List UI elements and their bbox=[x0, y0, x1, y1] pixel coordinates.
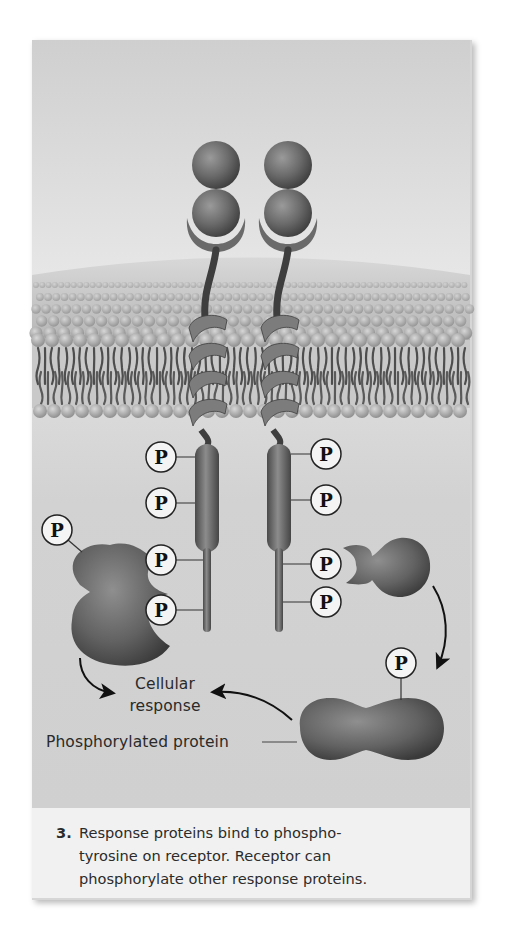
ligand-sphere bbox=[264, 189, 312, 237]
svg-text:P: P bbox=[319, 444, 333, 465]
cellular-response-label: Cellular response bbox=[128, 673, 202, 717]
svg-text:P: P bbox=[154, 550, 168, 571]
lipid-bilayer bbox=[29, 258, 474, 419]
caption-box: 3. Response proteins bind to phospho- ty… bbox=[32, 808, 470, 898]
extracellular-background bbox=[32, 40, 470, 808]
step-number: 3. bbox=[56, 821, 72, 844]
ligand-sphere bbox=[192, 141, 240, 189]
caption-line: Response proteins bind to phospho- bbox=[56, 821, 456, 844]
caption-line: phosphorylate other response proteins. bbox=[56, 867, 456, 890]
receptor-tyrosine-kinase-diagram: PPPPPPPPPP bbox=[0, 0, 505, 929]
svg-text:P: P bbox=[50, 520, 64, 541]
kinase-domain bbox=[267, 444, 291, 552]
svg-text:P: P bbox=[319, 490, 333, 511]
svg-text:P: P bbox=[154, 447, 168, 468]
caption: 3. Response proteins bind to phospho- ty… bbox=[56, 821, 456, 890]
svg-text:P: P bbox=[319, 592, 333, 613]
svg-text:P: P bbox=[319, 554, 333, 575]
outer-leaflet-heads bbox=[31, 333, 465, 347]
svg-text:P: P bbox=[154, 600, 168, 621]
svg-text:P: P bbox=[154, 493, 168, 514]
kinase-domain bbox=[195, 444, 219, 552]
cellular-response-line1: Cellular bbox=[135, 675, 195, 693]
receptor-tail bbox=[275, 548, 283, 632]
phosphorylated-protein-label: Phosphorylated protein bbox=[46, 731, 229, 753]
inner-leaflet-heads bbox=[33, 404, 467, 418]
ligand-sphere bbox=[264, 141, 312, 189]
svg-text:P: P bbox=[394, 653, 408, 674]
caption-line: tyrosine on receptor. Receptor can bbox=[56, 844, 456, 867]
receptor-tail bbox=[203, 548, 211, 632]
cellular-response-line2: response bbox=[129, 697, 200, 715]
left-response-protein-phosphate: P bbox=[42, 515, 72, 545]
phosphorylated-protein-phosphate: P bbox=[386, 648, 416, 678]
ligand-sphere bbox=[192, 189, 240, 237]
